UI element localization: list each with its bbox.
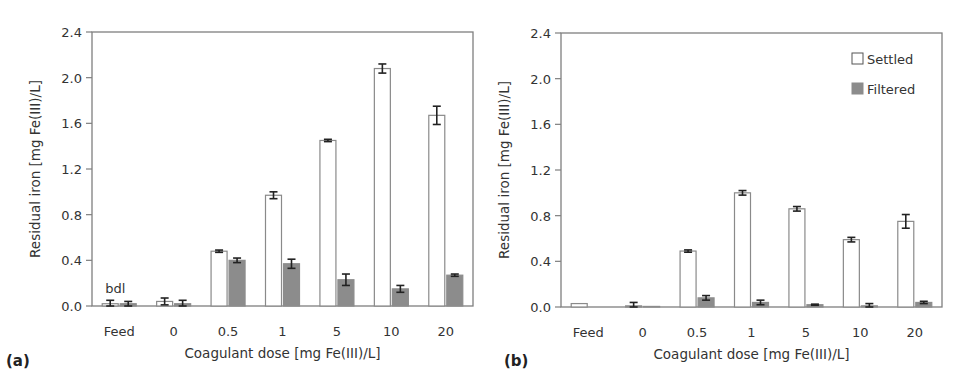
y-tick-label: 2.0 [61, 71, 82, 86]
y-tick-label: 0.4 [61, 253, 82, 268]
bar-settled [374, 69, 390, 306]
y-tick-label: 0.8 [61, 208, 82, 223]
x-tick-label: 1 [747, 325, 755, 340]
y-tick-label: 2.0 [530, 72, 551, 87]
bar-settled [898, 221, 914, 307]
bar-settled [843, 240, 859, 307]
annotation-bdl: bdl [105, 281, 125, 296]
y-tick-label: 1.2 [61, 162, 82, 177]
x-tick-label: 10 [383, 324, 400, 339]
y-tick-label: 0.4 [530, 254, 551, 269]
x-axis-title: Coagulant dose [mg Fe(III)/L] [184, 345, 380, 361]
y-tick-label: 1.6 [61, 116, 82, 131]
legend-label-filtered: Filtered [867, 82, 915, 97]
panel-label-b: (b) [504, 352, 528, 370]
plot-frame [561, 33, 942, 307]
bar-filtered [229, 260, 245, 306]
x-tick-label: 5 [802, 325, 810, 340]
bar-settled [735, 193, 751, 307]
x-tick-label: 0 [639, 325, 647, 340]
bar-settled [320, 140, 336, 306]
bar-settled [571, 304, 587, 307]
y-tick-label: 0.0 [61, 299, 82, 314]
x-tick-label: 1 [278, 324, 286, 339]
y-tick-label: 1.2 [530, 163, 551, 178]
bar-settled [789, 209, 805, 307]
x-tick-label: 10 [852, 325, 869, 340]
x-tick-label: 20 [907, 325, 924, 340]
bar-filtered [644, 306, 660, 307]
bar-settled [211, 251, 227, 306]
bar-chart-a: 0.00.40.81.21.62.02.4Residual iron [mg F… [0, 0, 483, 388]
chart-panel-a: 0.00.40.81.21.62.02.4Residual iron [mg F… [0, 0, 483, 388]
x-axis-title: Coagulant dose [mg Fe(III)/L] [653, 346, 849, 362]
y-tick-label: 2.4 [61, 25, 82, 40]
bar-filtered [284, 264, 300, 306]
plot-frame [92, 32, 473, 306]
bar-settled [429, 115, 445, 306]
x-tick-label: Feed [573, 325, 604, 340]
panel-label-a: (a) [6, 352, 30, 370]
x-tick-label: 5 [333, 324, 341, 339]
legend-label-settled: Settled [867, 52, 913, 67]
x-tick-label: Feed [104, 324, 135, 339]
x-tick-label: 0.5 [687, 325, 708, 340]
legend-swatch-settled [852, 53, 863, 64]
bar-chart-b: 0.00.40.81.21.62.02.4Residual iron [mg F… [484, 0, 967, 388]
bar-settled [266, 195, 282, 306]
y-tick-label: 0.8 [530, 209, 551, 224]
legend-swatch-filtered [852, 83, 863, 94]
chart-panel-b: 0.00.40.81.21.62.02.4Residual iron [mg F… [484, 0, 967, 388]
y-tick-label: 2.4 [530, 26, 551, 41]
x-tick-label: 20 [438, 324, 455, 339]
y-tick-label: 0.0 [530, 300, 551, 315]
bar-filtered [447, 275, 463, 306]
y-axis-title: Residual iron [mg Fe(III)/L] [27, 80, 43, 258]
x-tick-label: 0.5 [218, 324, 239, 339]
x-tick-label: 0 [170, 324, 178, 339]
bar-settled [680, 251, 696, 307]
y-axis-title: Residual iron [mg Fe(III)/L] [496, 81, 512, 259]
y-tick-label: 1.6 [530, 117, 551, 132]
